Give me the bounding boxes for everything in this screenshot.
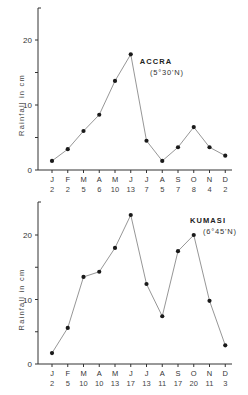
x-tick-sublabel: 5: [160, 185, 164, 194]
x-tick-sublabel: 4: [207, 185, 211, 194]
data-point: [223, 343, 227, 347]
data-point: [97, 113, 101, 117]
y-tick-label: 0: [28, 166, 33, 175]
chart-panel-kumasi: 01020Rainfall in cmJ2F5M10A10M13J17J13A1…: [17, 202, 237, 388]
data-point: [207, 299, 211, 303]
data-point: [129, 213, 133, 217]
x-tick-label-month: J: [129, 369, 133, 378]
x-tick-label-month: O: [191, 175, 197, 184]
data-point: [160, 159, 164, 163]
x-tick-sublabel: 2: [50, 185, 54, 194]
data-point: [113, 79, 117, 83]
x-tick-sublabel: 2: [50, 379, 54, 388]
x-tick-sublabel: 13: [127, 185, 135, 194]
data-point: [192, 125, 196, 129]
data-point: [160, 314, 164, 318]
x-tick-sublabel: 17: [127, 379, 135, 388]
x-tick-label-month: M: [112, 369, 118, 378]
data-point: [66, 147, 70, 151]
x-tick-sublabel: 7: [176, 185, 180, 194]
x-tick-label-month: A: [160, 369, 165, 378]
x-tick-sublabel: 7: [144, 185, 148, 194]
y-axis-label: Rainfall in cm: [17, 74, 26, 136]
x-tick-sublabel: 13: [111, 379, 119, 388]
station-latitude: (6°45'N): [203, 227, 237, 236]
station-title: ACCRA: [140, 57, 173, 66]
data-point: [97, 270, 101, 274]
x-tick-label-month: A: [160, 175, 165, 184]
data-point: [50, 351, 54, 355]
x-tick-sublabel: 11: [206, 379, 214, 388]
y-axis-label: Rainfall in cm: [17, 269, 26, 331]
x-tick-sublabel: 6: [97, 185, 101, 194]
data-point: [113, 246, 117, 250]
x-tick-sublabel: 11: [158, 379, 166, 388]
x-tick-label-month: M: [80, 175, 86, 184]
x-tick-sublabel: 2: [66, 185, 70, 194]
x-tick-label-month: M: [80, 369, 86, 378]
x-tick-label-month: O: [191, 369, 197, 378]
data-point: [192, 233, 196, 237]
x-tick-sublabel: 5: [66, 379, 70, 388]
data-point: [66, 326, 70, 330]
data-point: [207, 145, 211, 149]
x-tick-sublabel: 13: [142, 379, 150, 388]
x-tick-sublabel: 2: [223, 185, 227, 194]
x-tick-label-month: M: [112, 175, 118, 184]
x-tick-label-month: A: [97, 369, 102, 378]
x-tick-sublabel: 17: [174, 379, 182, 388]
x-tick-label-month: F: [65, 175, 70, 184]
data-point: [176, 249, 180, 253]
x-tick-sublabel: 8: [192, 185, 196, 194]
x-tick-label-month: A: [97, 175, 102, 184]
rainfall-charts: 01020Rainfall in cmJ2F2M5A6M10J13J7A5S7O…: [0, 0, 248, 395]
x-tick-label-month: S: [175, 175, 180, 184]
data-point: [144, 139, 148, 143]
x-tick-label-month: J: [145, 369, 149, 378]
x-tick-label-month: J: [145, 175, 149, 184]
y-tick-label: 20: [23, 36, 32, 45]
series-line: [52, 54, 225, 161]
data-point: [50, 159, 54, 163]
x-tick-label-month: N: [207, 175, 212, 184]
data-point: [144, 282, 148, 286]
x-tick-label-month: D: [223, 369, 229, 378]
chart-panel-accra: 01020Rainfall in cmJ2F2M5A6M10J13J7A5S7O…: [17, 8, 232, 194]
x-tick-sublabel: 20: [190, 379, 198, 388]
series-line: [52, 215, 225, 353]
data-point: [81, 129, 85, 133]
y-tick-label: 0: [28, 360, 33, 369]
y-tick-label: 20: [23, 231, 32, 240]
x-tick-label-month: J: [50, 369, 54, 378]
x-tick-label-month: S: [175, 369, 180, 378]
x-tick-label-month: J: [50, 175, 54, 184]
x-tick-sublabel: 10: [79, 379, 87, 388]
x-tick-label-month: N: [207, 369, 212, 378]
station-title: KUMASI: [190, 216, 226, 225]
x-tick-sublabel: 10: [95, 379, 103, 388]
x-tick-label-month: J: [129, 175, 133, 184]
data-point: [223, 154, 227, 158]
x-tick-label-month: F: [65, 369, 70, 378]
data-point: [176, 145, 180, 149]
x-tick-sublabel: 5: [81, 185, 85, 194]
x-tick-sublabel: 3: [223, 379, 227, 388]
data-point: [129, 52, 133, 56]
station-latitude: (5°30'N): [150, 68, 184, 77]
x-tick-sublabel: 10: [111, 185, 119, 194]
x-tick-label-month: D: [223, 175, 229, 184]
data-point: [81, 275, 85, 279]
